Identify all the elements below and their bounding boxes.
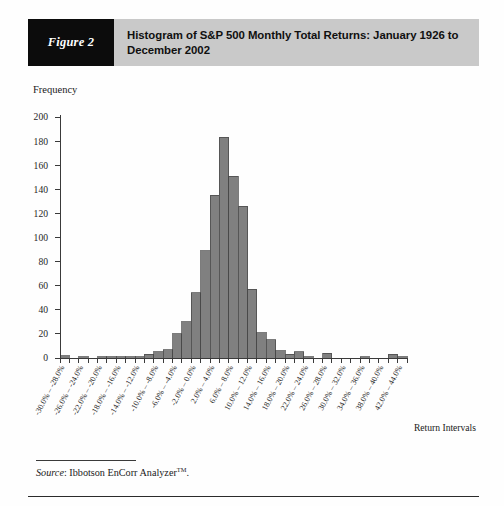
histogram-bar	[182, 322, 191, 358]
y-tick-label: 80	[38, 256, 48, 267]
histogram-bar	[219, 137, 228, 358]
histogram-bar	[229, 176, 238, 358]
y-axis-ticks: 020406080100120140160180200	[34, 111, 60, 363]
histogram-bar	[144, 354, 153, 358]
y-tick-label: 140	[34, 184, 49, 195]
y-tick-label: 0	[43, 352, 48, 363]
histogram-bar	[248, 289, 257, 358]
source-label: Source	[36, 467, 64, 478]
histogram-bar	[210, 195, 219, 358]
histogram-bar	[154, 352, 163, 358]
histogram-bars	[60, 137, 407, 358]
x-axis-tick-labels: -30.0% – -28.0%-26.0% – -24.0%-22.0% – -…	[33, 363, 405, 416]
y-tick-label: 20	[38, 328, 48, 339]
y-tick-label: 100	[34, 232, 49, 243]
source-period: .	[186, 467, 189, 478]
histogram-bar	[257, 333, 266, 358]
y-tick-label: 160	[34, 160, 49, 171]
x-axis-ticks	[60, 358, 407, 363]
histogram-bar	[163, 350, 172, 358]
histogram-bar	[266, 340, 275, 358]
histogram-bar	[201, 251, 210, 358]
y-tick-label: 200	[34, 111, 49, 122]
y-tick-label: 180	[34, 136, 49, 147]
source-text: : Ibbotson EnCorr Analyzer	[64, 467, 177, 478]
histogram-bar	[285, 354, 294, 358]
histogram-bar	[173, 334, 182, 358]
histogram-bar	[388, 354, 397, 358]
figure-container: Figure 2 Histogram of S&P 500 Monthly To…	[0, 0, 504, 506]
y-tick-label: 60	[38, 280, 48, 291]
histogram-bar	[276, 351, 285, 358]
histogram-bar	[191, 293, 200, 358]
figure-bottom-rule	[28, 496, 479, 497]
histogram-bar	[323, 353, 332, 358]
trademark-symbol: TM	[177, 466, 187, 473]
x-axis-title: Return Intervals	[414, 422, 476, 433]
histogram-bar	[238, 206, 247, 358]
y-tick-label: 120	[34, 208, 49, 219]
source-note: Source: Ibbotson EnCorr AnalyzerTM.	[36, 466, 189, 478]
y-tick-label: 40	[38, 304, 48, 315]
histogram-bar	[294, 352, 303, 358]
source-divider	[36, 460, 136, 461]
